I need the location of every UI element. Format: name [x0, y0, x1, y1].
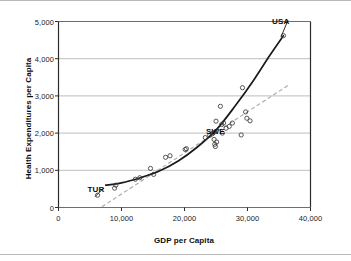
- gridlines: [59, 22, 311, 208]
- x-tick-label: 10,000: [110, 214, 134, 223]
- data-points: [95, 34, 285, 198]
- x-axis-title: GDP per Capita: [58, 236, 310, 245]
- y-tick-label: 4,000: [14, 54, 54, 63]
- exponential-trendline: [106, 36, 284, 186]
- axis-ticks: [55, 22, 311, 212]
- annotation-swe: SWE: [206, 127, 225, 136]
- y-tick-label: 0: [14, 203, 54, 212]
- y-axis-title: Health Expenditures per Capita: [24, 29, 33, 209]
- x-tick-label: 40,000: [299, 214, 323, 223]
- y-tick-label: 3,000: [14, 91, 54, 100]
- plot-frame: [59, 22, 311, 208]
- x-tick-label: 0: [56, 214, 60, 223]
- linear-trendline: [102, 85, 288, 207]
- x-tick-label: 20,000: [173, 214, 197, 223]
- annotation-tur: TUR: [87, 185, 104, 194]
- y-tick-label: 2,000: [14, 129, 54, 138]
- y-tick-label: 1,000: [14, 166, 54, 175]
- chart-figure: 01,0002,0003,0004,0005,000 010,00020,000…: [0, 0, 351, 261]
- y-tick-label: 5,000: [14, 17, 54, 26]
- x-tick-label: 30,000: [236, 214, 260, 223]
- annotation-usa: USA: [272, 17, 290, 26]
